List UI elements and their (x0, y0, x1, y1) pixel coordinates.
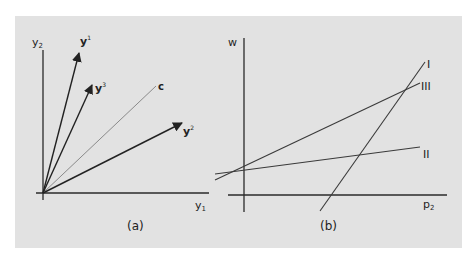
line-II (215, 147, 420, 174)
vector-y3-label: y3 (95, 81, 106, 95)
vector-y3 (43, 85, 92, 193)
panel-a: y2 y1 y3 c y2 y1 (a) (32, 34, 209, 233)
figure-diagram: y2 y1 y3 c y2 y1 (a) w I III II p2 (b) (0, 0, 474, 263)
w-axis-label: w (228, 36, 237, 49)
panel-b: w I III II p2 (b) (215, 36, 447, 233)
line-I (320, 62, 425, 211)
line-III (215, 83, 420, 180)
panel-a-caption: (a) (127, 219, 144, 233)
vector-y2 (43, 123, 182, 193)
vector-c (43, 86, 156, 193)
vector-y1-label: y1 (80, 34, 91, 48)
vector-y1 (43, 53, 79, 193)
line-II-label: II (423, 148, 430, 161)
panel-b-caption: (b) (320, 219, 337, 233)
vector-c-label: c (158, 81, 164, 92)
y2-axis-label: y2 (32, 36, 43, 50)
vector-y2-label: y2 (183, 124, 194, 138)
line-I-label: I (427, 58, 430, 71)
p2-axis-label: p2 (423, 198, 434, 212)
line-III-label: III (421, 80, 431, 93)
y1-axis-label: y1 (195, 199, 206, 213)
